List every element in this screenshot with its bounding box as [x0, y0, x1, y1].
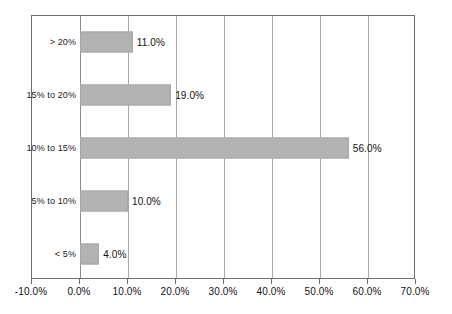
value-label: 19.0% — [175, 90, 204, 101]
x-axis-tick-label: 30.0% — [209, 286, 238, 297]
bar-chart: > 20%11.0%15% to 20%19.0%10% to 15%56.0%… — [0, 0, 452, 314]
bar-row: < 5%4.0% — [32, 227, 414, 280]
bar[interactable] — [80, 190, 128, 211]
category-label: 5% to 10% — [32, 196, 76, 206]
x-axis-tick — [79, 279, 80, 284]
category-label: 10% to 15% — [26, 143, 76, 153]
x-axis-tick — [31, 279, 32, 284]
plot-area: > 20%11.0%15% to 20%19.0%10% to 15%56.0%… — [31, 15, 415, 279]
bar[interactable] — [80, 243, 99, 264]
x-axis-tick — [367, 279, 368, 284]
x-axis-tick — [223, 279, 224, 284]
x-axis-tick-label: 50.0% — [305, 286, 334, 297]
x-axis-tick-label: 0.0% — [67, 286, 90, 297]
x-axis-tick-label: 10.0% — [113, 286, 142, 297]
x-axis-tick — [127, 279, 128, 284]
x-axis-tick-label: 40.0% — [257, 286, 286, 297]
category-label: < 5% — [55, 249, 76, 259]
x-axis-tick — [319, 279, 320, 284]
x-axis-tick-labels: -10.0%0.0%10.0%20.0%30.0%40.0%50.0%60.0%… — [0, 286, 452, 306]
category-label: > 20% — [50, 37, 76, 47]
value-label: 4.0% — [103, 248, 126, 259]
category-label: 15% to 20% — [26, 90, 76, 100]
x-axis-tick-label: 60.0% — [353, 286, 382, 297]
value-label: 10.0% — [132, 195, 161, 206]
x-axis-tick-label: 70.0% — [401, 286, 430, 297]
bars-layer: > 20%11.0%15% to 20%19.0%10% to 15%56.0%… — [32, 16, 414, 278]
x-axis-tick-label: -10.0% — [15, 286, 47, 297]
x-axis-tick — [271, 279, 272, 284]
x-axis-ticks — [31, 279, 415, 284]
x-axis-tick — [175, 279, 176, 284]
bar[interactable] — [80, 137, 349, 158]
x-axis-tick — [415, 279, 416, 284]
bar-row: 5% to 10%10.0% — [32, 174, 414, 227]
bar-row: 15% to 20%19.0% — [32, 69, 414, 122]
bar-row: 10% to 15%56.0% — [32, 122, 414, 175]
value-label: 11.0% — [137, 37, 165, 48]
x-axis-tick-label: 20.0% — [161, 286, 190, 297]
bar[interactable] — [80, 85, 171, 106]
value-label: 56.0% — [353, 142, 382, 153]
bar[interactable] — [80, 32, 133, 53]
bar-row: > 20%11.0% — [32, 16, 414, 69]
